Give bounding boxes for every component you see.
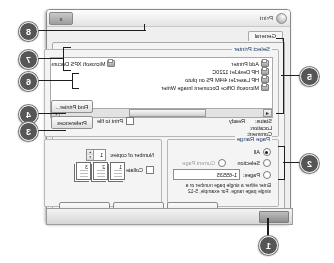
bracket-6 (72, 73, 79, 89)
printer-icon (261, 68, 269, 75)
page-preview-3: 3 (76, 162, 91, 180)
printer-name: HP LaserJet 4/4M PS on pluto (185, 77, 259, 83)
printer-name: HP DeskJet 1220C (212, 69, 259, 75)
radio-all-label: All (254, 149, 260, 155)
annotated-screenshot: Print x General Select Printer (0, 0, 334, 263)
print-to-file-label: Print to file (97, 118, 123, 124)
checkbox-icon[interactable] (126, 117, 134, 125)
bracket-2 (278, 146, 285, 180)
stepper-down-icon[interactable]: ▼ (87, 155, 94, 160)
bracket-5 (276, 38, 284, 114)
radio-pages-label: Pages: (243, 172, 260, 178)
list-item[interactable]: HP DeskJet 1220C (161, 68, 269, 75)
radio-current-page-label: Current Page (182, 160, 215, 166)
taskbar-item[interactable] (259, 211, 289, 223)
leader-line-3 (36, 130, 66, 131)
printer-name: Microsoft Office Document Image Writer (161, 85, 259, 91)
page-range-title: Page Range (235, 136, 272, 142)
scrollbar-thumb[interactable] (129, 109, 206, 117)
leader-line-8b (144, 24, 145, 31)
dialog-client-area: General Select Printer Add Printer (47, 27, 290, 223)
radio-selection[interactable]: Selection (237, 159, 271, 167)
printer-icon (261, 84, 269, 91)
title-bar: Print x (47, 10, 290, 27)
print-dialog-window: Print x General Select Printer (46, 9, 291, 224)
page-range-group: Page Range All Selection Current Page (167, 139, 279, 207)
leader-line-4 (36, 113, 66, 114)
copies-value: 1 (100, 152, 103, 158)
printer-status-block: Status: Ready Location: Comment: (229, 118, 272, 138)
radio-selection-label: Selection (237, 160, 260, 166)
printer-name: Add Printer (231, 61, 259, 67)
checkbox-icon[interactable] (146, 166, 154, 174)
stepper-buttons[interactable]: ▲ ▼ (87, 150, 94, 160)
tab-page-general: Select Printer Add Printer (52, 42, 285, 218)
callout-7: 7 (19, 50, 38, 69)
number-of-copies-row: Number of copies: 1 ▲ ▼ (86, 149, 154, 161)
list-item[interactable]: Microsoft XPS Document (50, 60, 115, 67)
collate-label: Collate (126, 167, 143, 173)
printer-icon (107, 60, 115, 67)
page-preview-2: 2 (93, 162, 108, 180)
select-printer-group: Select Printer Add Printer (44, 49, 279, 137)
number-of-copies-label: Number of copies: (109, 152, 154, 158)
printer-icon (261, 76, 269, 83)
leader-line-7 (36, 58, 64, 59)
select-printer-title: Select Printer (232, 46, 272, 52)
status-value: Ready (229, 118, 245, 125)
window-title: Print (260, 15, 273, 21)
callout-1: 1 (259, 236, 278, 255)
taskbar (46, 208, 293, 225)
callout-2: 2 (300, 154, 319, 173)
close-icon[interactable]: x (49, 12, 73, 25)
printer-name: Microsoft XPS Document (50, 61, 105, 67)
find-printer-button[interactable]: Find Printer... (51, 100, 93, 113)
copies-stepper[interactable]: 1 ▲ ▼ (86, 149, 106, 161)
preferences-button[interactable]: Preferences (51, 116, 93, 129)
collate-preview: 1 2 3 (76, 162, 125, 180)
radio-pages[interactable]: Pages: (243, 171, 271, 179)
radio-icon[interactable] (218, 159, 226, 167)
collate-checkbox[interactable]: Collate (126, 166, 154, 174)
leader-line-6 (36, 80, 73, 81)
copies-group: Number of copies: 1 ▲ ▼ Coll (44, 139, 162, 207)
leader-line-8 (36, 30, 146, 31)
printer-icon (276, 13, 287, 24)
radio-all[interactable]: All (254, 148, 271, 156)
tab-strip: General (52, 31, 285, 42)
radio-icon[interactable] (263, 148, 271, 156)
radio-icon[interactable] (263, 159, 271, 167)
page-range-hint: Enter either a single page number or a s… (174, 182, 271, 194)
callout-3: 3 (19, 122, 38, 141)
list-item[interactable]: HP LaserJet 4/4M PS on pluto (161, 76, 269, 83)
callout-8: 8 (19, 22, 38, 41)
printer-icon (261, 60, 269, 67)
print-dialog: Print x General Select Printer (46, 9, 291, 224)
bracket-7 (63, 47, 71, 71)
scroll-left-icon[interactable]: ◄ (263, 109, 272, 117)
callout-6: 6 (19, 72, 38, 91)
page-preview-1: 1 (110, 162, 125, 180)
radio-current-page[interactable]: Current Page (182, 159, 226, 167)
list-item[interactable]: Microsoft Office Document Image Writer (161, 84, 269, 91)
list-item[interactable]: Add Printer (161, 60, 269, 67)
pages-input[interactable]: 1-65535 (173, 169, 240, 180)
radio-icon[interactable] (263, 171, 271, 179)
callout-5: 5 (300, 67, 319, 86)
print-to-file-checkbox[interactable]: Print to file (97, 117, 134, 125)
